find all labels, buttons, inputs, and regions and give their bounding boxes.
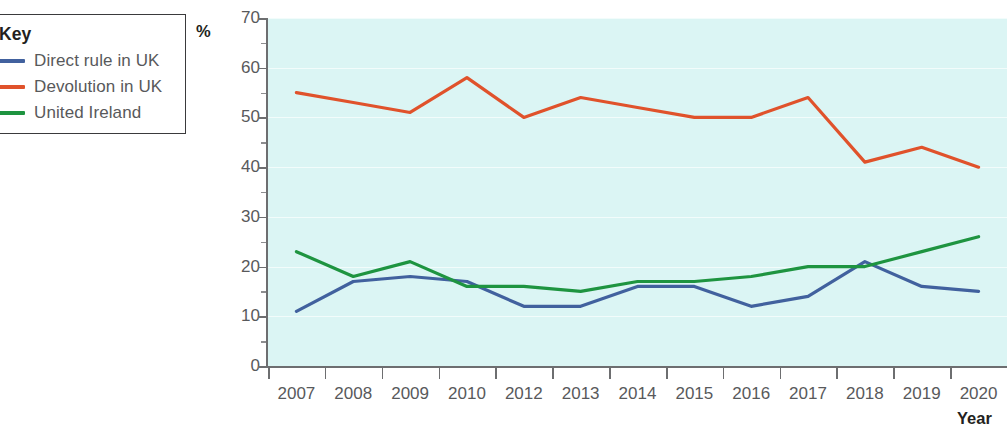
y-tick-label: 20 [218, 257, 260, 277]
x-tick-mark [439, 368, 441, 379]
y-tick-mark [258, 267, 266, 269]
x-tick-mark [495, 368, 497, 379]
legend-item-devolution: Devolution in UK [0, 74, 185, 100]
x-tick-label: 2017 [789, 384, 827, 404]
legend-swatch-united-ireland [0, 111, 25, 115]
y-tick-minor [261, 242, 266, 243]
x-tick-mark [552, 368, 554, 379]
y-tick-label: 40 [218, 157, 260, 177]
x-tick-label: 2010 [448, 384, 486, 404]
x-tick-mark [609, 368, 611, 379]
x-tick-mark [836, 368, 838, 379]
y-tick-mark [258, 167, 266, 169]
x-tick-label: 2008 [334, 384, 372, 404]
x-tick-label: 2016 [732, 384, 770, 404]
y-tick-label: 60 [218, 58, 260, 78]
x-tick-mark [780, 368, 782, 379]
x-tick-mark [893, 368, 895, 379]
x-tick-label: 2015 [675, 384, 713, 404]
x-tick-label: 2020 [960, 384, 998, 404]
x-tick-mark [950, 368, 952, 379]
y-tick-label: 70 [218, 8, 260, 28]
legend-label-devolution: Devolution in UK [34, 77, 162, 97]
legend-swatch-devolution [0, 85, 25, 89]
series-line-devolution-in-uk [296, 78, 978, 167]
y-tick-mark [258, 18, 266, 20]
legend-title: Key [0, 22, 185, 46]
x-tick-mark [325, 368, 327, 379]
x-tick-mark [723, 368, 725, 379]
y-tick-mark [258, 316, 266, 318]
chart-root: Key Direct rule in UK Devolution in UK U… [0, 0, 1007, 431]
y-tick-label: 0 [218, 356, 260, 376]
x-tick-mark [268, 368, 270, 379]
x-axis-title: Year [957, 409, 992, 428]
y-tick-mark [258, 366, 266, 368]
x-tick-mark [382, 368, 384, 379]
x-tick-label: 2012 [505, 384, 543, 404]
y-tick-mark [258, 217, 266, 219]
legend-item-direct-rule: Direct rule in UK [0, 48, 185, 74]
x-tick-mark [666, 368, 668, 379]
y-axis-line [266, 18, 268, 366]
y-tick-minor [261, 291, 266, 292]
series-line-united-ireland [296, 237, 978, 292]
x-tick-label: 2013 [562, 384, 600, 404]
x-tick-label: 2007 [278, 384, 316, 404]
y-axis-labels: 010203040506070 [204, 0, 260, 431]
legend-item-united-ireland: United Ireland [0, 100, 185, 126]
y-tick-minor [261, 192, 266, 193]
x-axis-line [266, 366, 1007, 368]
y-tick-minor [261, 341, 266, 342]
y-tick-label: 50 [218, 107, 260, 127]
y-tick-mark [258, 117, 266, 119]
y-tick-mark [258, 68, 266, 70]
plot-area [268, 18, 1007, 366]
x-tick-label: 2018 [846, 384, 884, 404]
x-tick-label: 2019 [903, 384, 941, 404]
x-tick-label: 2014 [619, 384, 657, 404]
x-tick-label: 2009 [391, 384, 429, 404]
series-line-direct-rule-in-uk [296, 262, 978, 312]
legend-key-box: Key Direct rule in UK Devolution in UK U… [0, 14, 186, 134]
y-tick-minor [261, 142, 266, 143]
series-layer [268, 18, 1007, 366]
y-tick-label: 30 [218, 207, 260, 227]
y-tick-minor [261, 93, 266, 94]
legend-swatch-direct-rule [0, 59, 25, 63]
legend-label-united-ireland: United Ireland [34, 103, 141, 123]
legend-label-direct-rule: Direct rule in UK [34, 51, 159, 71]
y-tick-label: 10 [218, 306, 260, 326]
y-tick-minor [261, 43, 266, 44]
